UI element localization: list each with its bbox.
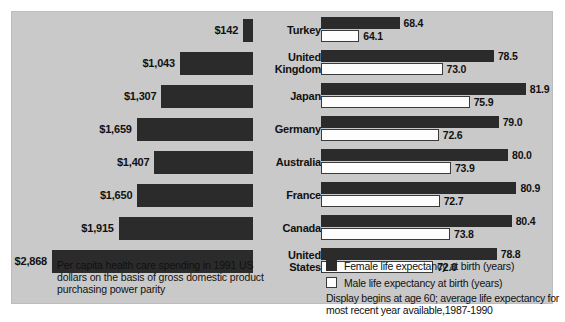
country-label-line2: Kingdom (275, 64, 321, 76)
spending-value-label: $1,307 (124, 90, 156, 102)
life-expectancy-male-value: 75.9 (474, 96, 494, 108)
spending-value-label: $1,659 (99, 123, 131, 135)
spending-bar-group: $1,407 (11, 149, 253, 175)
life-expectancy-male-bar (321, 195, 440, 207)
life-expectancy-male-bar (321, 63, 443, 75)
life-expectancy-male-row: 72.6 (321, 129, 462, 141)
life-expectancy-female-value: 78.5 (498, 50, 518, 62)
life-expectancy-female-value: 81.9 (530, 83, 550, 95)
country-label-line1: Germany (275, 124, 321, 136)
life-expectancy-female-bar (321, 83, 526, 95)
life-expectancy-female-row: 68.4 (321, 17, 423, 29)
country-label-line1: United (288, 250, 321, 262)
legend-swatch-male-icon (326, 277, 337, 288)
chart-row: $1,407Australia80.073.9 (11, 146, 553, 179)
life-expectancy-bar-group: 79.072.6 (321, 113, 553, 146)
spending-bar (137, 118, 253, 141)
life-expectancy-female-bar (321, 17, 400, 29)
country-label: Australia (255, 146, 321, 179)
country-label: Turkey (255, 14, 321, 47)
life-expectancy-bar-group: 78.573.0 (321, 47, 553, 80)
legend-item-male: Male life expectancy at birth (years) (326, 275, 556, 290)
life-expectancy-female-bar (321, 215, 512, 227)
life-expectancy-bar-group: 80.473.8 (321, 212, 553, 245)
spending-bar (119, 217, 253, 240)
life-expectancy-male-value: 73.9 (455, 162, 475, 174)
life-expectancy-male-row: 73.0 (321, 63, 466, 75)
country-label: Japan (255, 80, 321, 113)
chart-row: $142Turkey68.464.1 (11, 14, 553, 47)
life-expectancy-male-value: 73.0 (447, 63, 467, 75)
country-label-line2: States (289, 262, 321, 274)
life-expectancy-male-row: 73.8 (321, 228, 474, 240)
country-label-line1: United (288, 52, 321, 64)
chart-row: $1,307Japan81.975.9 (11, 80, 553, 113)
country-label-line1: Canada (282, 223, 321, 235)
life-expectancy-bar-group: 68.464.1 (321, 14, 553, 47)
life-expectancy-female-row: 79.0 (321, 116, 522, 128)
spending-bar-group: $1,650 (11, 182, 253, 208)
life-expectancy-male-row: 72.7 (321, 195, 463, 207)
legend-swatch-female-icon (326, 260, 337, 271)
spending-bar (180, 52, 253, 75)
life-expectancy-female-value: 80.4 (516, 215, 536, 227)
country-label: France (255, 179, 321, 212)
chart-figure: $142Turkey68.464.1$1,043UnitedKingdom78.… (0, 0, 565, 322)
spending-bar-group: $1,659 (11, 116, 253, 142)
chart-row: $1,650France80.972.7 (11, 179, 553, 212)
life-expectancy-bar-group: 80.972.7 (321, 179, 553, 212)
life-expectancy-male-bar (321, 129, 439, 141)
life-expectancy-female-value: 80.0 (512, 149, 532, 161)
spending-value-label: $2,868 (15, 255, 47, 267)
spending-bar-group: $1,307 (11, 83, 253, 109)
life-expectancy-male-value: 72.6 (443, 129, 463, 141)
spending-note: Per capita health care spending in 1991 … (57, 259, 272, 296)
figure-caption (8, 310, 408, 321)
spending-bar (137, 184, 253, 207)
spending-bar-group: $1,043 (11, 50, 253, 76)
life-expectancy-male-bar (321, 162, 451, 174)
country-label: Canada (255, 212, 321, 245)
chart-row: $1,659Germany79.072.6 (11, 113, 553, 146)
life-expectancy-female-row: 78.5 (321, 50, 518, 62)
legend-item-female: Female life expectancy at birth (years) (326, 258, 556, 273)
legend-label-male: Male life expectancy at birth (years) (344, 277, 502, 289)
country-label-line1: Turkey (287, 25, 321, 37)
spending-value-label: $1,407 (117, 156, 149, 168)
life-expectancy-female-row: 81.9 (321, 83, 549, 95)
chart-legend: Female life expectancy at birth (years) … (326, 258, 556, 292)
country-label: UnitedKingdom (255, 47, 321, 80)
legend-label-female: Female life expectancy at birth (years) (344, 260, 514, 272)
life-expectancy-bar-group: 80.073.9 (321, 146, 553, 179)
life-expectancy-male-bar (321, 30, 359, 42)
life-expectancy-bar-group: 81.975.9 (321, 80, 553, 113)
life-expectancy-female-bar (321, 50, 494, 62)
spending-bar-group: $1,915 (11, 215, 253, 241)
spending-value-label: $1,915 (81, 222, 113, 234)
life-expectancy-male-value: 72.7 (444, 195, 464, 207)
life-expectancy-female-bar (321, 149, 508, 161)
country-label-line1: Australia (276, 157, 321, 169)
country-label-line1: Japan (290, 91, 321, 103)
chart-panel: $142Turkey68.464.1$1,043UnitedKingdom78.… (11, 11, 553, 304)
life-expectancy-male-value: 73.8 (454, 228, 474, 240)
life-expectancy-female-value: 80.9 (520, 182, 540, 194)
spending-bar (161, 85, 253, 108)
chart-row: $1,043UnitedKingdom78.573.0 (11, 47, 553, 80)
spending-value-label: $142 (214, 24, 238, 36)
life-expectancy-male-row: 73.9 (321, 162, 475, 174)
life-expectancy-female-bar (321, 182, 516, 194)
life-expectancy-female-row: 80.9 (321, 182, 540, 194)
life-expectancy-female-value: 68.4 (404, 17, 424, 29)
life-expectancy-female-bar (321, 116, 499, 128)
chart-row: $1,915Canada80.473.8 (11, 212, 553, 245)
life-expectancy-male-row: 75.9 (321, 96, 493, 108)
life-expectancy-male-value: 64.1 (363, 30, 383, 42)
life-expectancy-male-bar (321, 96, 470, 108)
country-label-line1: France (286, 190, 321, 202)
life-expectancy-male-bar (321, 228, 450, 240)
spending-bar (154, 151, 253, 174)
country-label: Germany (255, 113, 321, 146)
life-expectancy-female-row: 80.0 (321, 149, 532, 161)
spending-bar (243, 19, 253, 42)
